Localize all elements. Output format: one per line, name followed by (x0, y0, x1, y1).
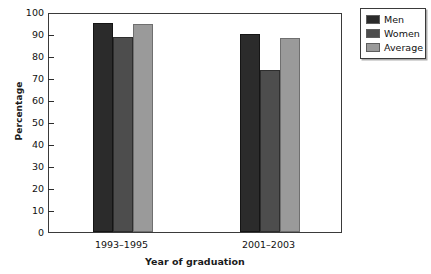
x-axis-title: Year of graduation (48, 256, 342, 267)
y-tick-label: 50 (18, 118, 44, 128)
y-tick-mark (48, 189, 54, 190)
y-tick-label: 70 (18, 74, 44, 84)
y-tick-mark (48, 101, 54, 102)
y-tick-label: 10 (18, 206, 44, 216)
legend-label: Average (384, 43, 423, 53)
y-tick-label: 40 (18, 140, 44, 150)
y-tick-label: 90 (18, 30, 44, 40)
bar (93, 23, 113, 232)
plot-inner (49, 14, 341, 232)
chart-legend: MenWomenAverage (360, 8, 426, 59)
y-tick-label: 60 (18, 96, 44, 106)
y-tick-label: 30 (18, 162, 44, 172)
bar (280, 38, 300, 232)
x-tick-label: 1993–1995 (82, 239, 162, 250)
y-axis-tick-labels: 0102030405060708090100 (18, 0, 44, 274)
y-tick-mark (48, 57, 54, 58)
legend-swatch-icon (366, 15, 380, 24)
bar (240, 34, 260, 232)
legend-swatch-icon (366, 29, 380, 38)
y-tick-mark (48, 145, 54, 146)
y-tick-label: 100 (18, 8, 44, 18)
x-tick-label: 2001–2003 (229, 239, 309, 250)
y-tick-mark (48, 35, 54, 36)
y-tick-mark (48, 167, 54, 168)
y-tick-label: 20 (18, 184, 44, 194)
legend-item: Women (366, 27, 421, 40)
y-tick-mark (48, 79, 54, 80)
bar-group (93, 14, 153, 232)
bar (113, 37, 133, 232)
legend-label: Women (384, 29, 420, 39)
legend-swatch-icon (366, 43, 380, 52)
legend-label: Men (384, 15, 404, 25)
bar (260, 70, 280, 232)
y-tick-mark (48, 123, 54, 124)
legend-item: Average (366, 41, 421, 54)
legend-item: Men (366, 13, 421, 26)
y-tick-mark (48, 211, 54, 212)
y-tick-label: 0 (18, 228, 44, 238)
bar-group (240, 14, 300, 232)
bar (133, 24, 153, 232)
plot-area (48, 13, 342, 233)
y-tick-label: 80 (18, 52, 44, 62)
bar-chart: Percentage 0102030405060708090100 Year o… (0, 0, 431, 274)
